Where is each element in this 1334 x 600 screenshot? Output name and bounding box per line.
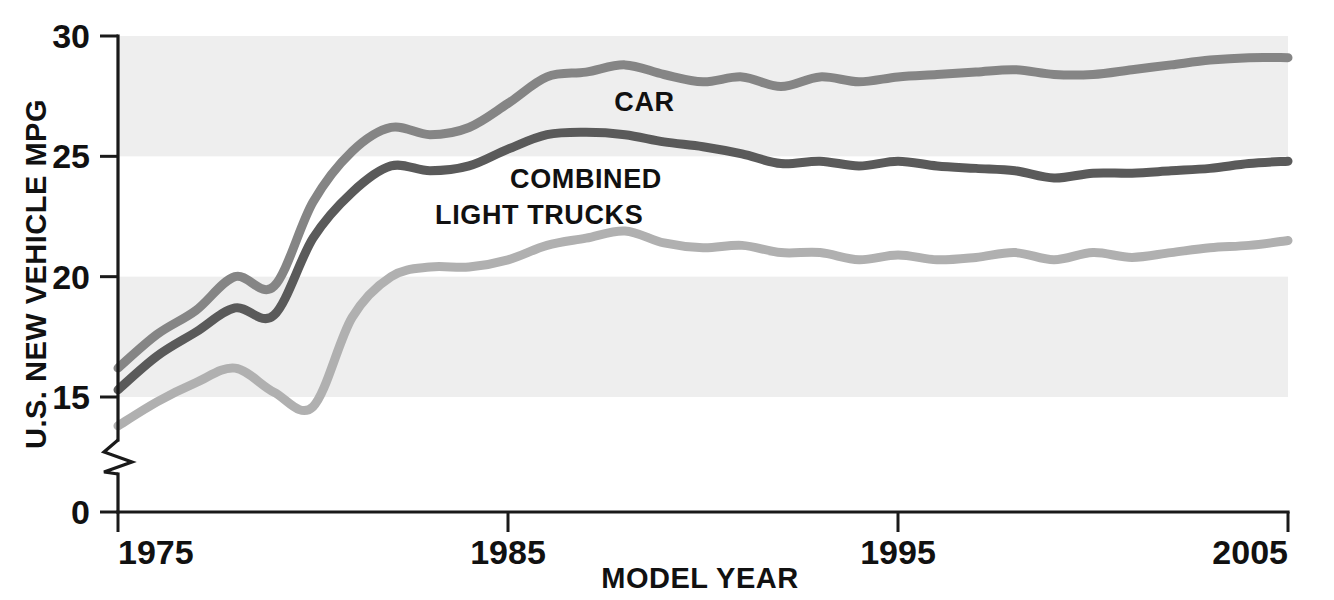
y-tick-label: 30 — [52, 17, 90, 55]
chart-band — [118, 277, 1288, 397]
x-tick-label: 1985 — [470, 533, 546, 571]
y-tick-label: 15 — [52, 378, 90, 416]
x-tick-label: 2005 — [1212, 533, 1288, 571]
chart-container: 015202530 1975198519952005 U.S. NEW VEHI… — [0, 0, 1334, 600]
y-tick-label: 0 — [71, 493, 90, 531]
y-tick-label: 25 — [52, 137, 90, 175]
y-axis-title: U.S. NEW VEHICLE MPG — [20, 99, 52, 449]
y-axis-break-icon — [104, 440, 132, 474]
y-tick-label: 20 — [52, 258, 90, 296]
x-ticks-group — [118, 512, 1288, 532]
y-tick-labels: 015202530 — [52, 17, 90, 531]
x-tick-label: 1975 — [118, 533, 194, 571]
chart-band — [118, 36, 1288, 156]
series-label-light-trucks: LIGHT TRUCKS — [435, 200, 643, 230]
chart-bands — [118, 36, 1288, 397]
x-axis-title: MODEL YEAR — [601, 562, 798, 594]
series-label-car: CAR — [614, 87, 674, 117]
mpg-line-chart: 015202530 1975198519952005 U.S. NEW VEHI… — [0, 0, 1334, 600]
series-label-combined: COMBINED — [510, 164, 662, 194]
x-tick-label: 1995 — [860, 533, 936, 571]
